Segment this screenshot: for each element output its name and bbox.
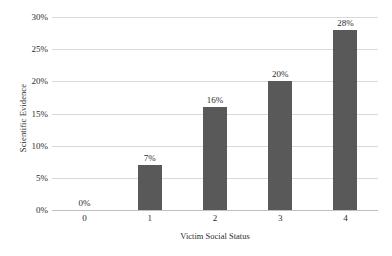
y-axis-tick-label: 5% xyxy=(8,173,48,183)
bar xyxy=(203,107,227,210)
bar-group: 7%1 xyxy=(117,17,182,210)
x-axis-tick-label: 2 xyxy=(213,213,218,223)
x-axis-tick-label: 1 xyxy=(148,213,153,223)
x-axis-tick-label: 3 xyxy=(278,213,283,223)
x-axis-title: Victim Social Status xyxy=(52,231,378,241)
plot-area: 0%5%10%15%20%25%30%0%07%116%220%328%4 xyxy=(52,17,378,210)
x-axis-tick-label: 4 xyxy=(343,213,348,223)
y-axis-tick-label: 15% xyxy=(8,109,48,119)
bar-group: 16%2 xyxy=(182,17,247,210)
y-axis-tick-label: 10% xyxy=(8,141,48,151)
x-axis-line xyxy=(52,210,378,211)
bar-value-label: 16% xyxy=(207,95,224,105)
bar-value-label: 20% xyxy=(272,69,289,79)
bar-group: 20%3 xyxy=(248,17,313,210)
bar-chart: Scientific Evidence 0%5%10%15%20%25%30%0… xyxy=(0,0,392,256)
x-axis-tick-label: 0 xyxy=(82,213,87,223)
bar-group: 0%0 xyxy=(52,17,117,210)
bar-value-label: 28% xyxy=(337,18,354,28)
y-axis-tick-label: 25% xyxy=(8,44,48,54)
bar-group: 28%4 xyxy=(313,17,378,210)
y-axis-tick-label: 30% xyxy=(8,12,48,22)
bar-value-label: 7% xyxy=(144,153,156,163)
bar-value-label: 0% xyxy=(79,198,91,208)
bar xyxy=(333,30,357,210)
bar xyxy=(138,165,162,210)
y-axis-tick-label: 20% xyxy=(8,76,48,86)
bar xyxy=(268,81,292,210)
y-axis-tick-label: 0% xyxy=(8,205,48,215)
